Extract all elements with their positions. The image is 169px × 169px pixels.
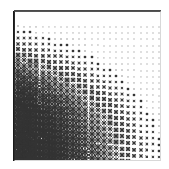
scatter-marker [41, 26, 44, 29]
scatter-marker [90, 33, 92, 35]
scatter-marker [81, 123, 89, 131]
scatter-marker [121, 58, 124, 61]
scatter-marker [56, 110, 66, 120]
scatter-marker [152, 45, 154, 47]
scatter-marker [72, 39, 75, 42]
scatter-marker [38, 91, 48, 101]
scatter-marker [97, 20, 99, 22]
scatter-marker [95, 81, 100, 86]
scatter-marker [22, 32, 26, 36]
scatter-marker [24, 127, 37, 140]
scatter-marker [139, 101, 142, 104]
scatter-marker [100, 130, 107, 137]
scatter-marker [157, 139, 160, 142]
scatter-marker [49, 147, 61, 159]
scatter-marker [102, 51, 105, 54]
scatter-marker [16, 38, 21, 43]
scatter-marker [139, 132, 143, 136]
scatter-marker [18, 109, 31, 122]
scatter-marker [101, 88, 106, 93]
scatter-marker [18, 115, 31, 128]
scatter-marker [70, 69, 75, 74]
scatter-marker [138, 157, 142, 161]
scatter-marker [78, 14, 80, 16]
scatter-marker [55, 147, 66, 158]
scatter-marker [33, 56, 39, 62]
scatter-marker [133, 14, 135, 16]
scatter-marker [15, 44, 21, 50]
scatter-marker [120, 100, 124, 104]
scatter-marker [23, 20, 26, 23]
scatter-marker [127, 76, 130, 79]
scatter-marker [36, 152, 49, 161]
scatter-marker [101, 112, 107, 118]
scatter-marker [152, 58, 154, 60]
scatter-marker [81, 136, 90, 145]
scatter-marker [109, 33, 111, 35]
scatter-marker [37, 97, 48, 108]
scatter-marker [133, 76, 136, 79]
scatter-marker [152, 14, 154, 16]
scatter-marker [115, 33, 117, 35]
scatter-marker [46, 56, 52, 62]
scatter-marker [121, 14, 123, 16]
scatter-marker [39, 68, 46, 75]
scatter-marker [77, 57, 81, 61]
scatter-marker [62, 117, 72, 127]
scatter-marker [94, 118, 101, 125]
scatter-marker [31, 97, 42, 108]
scatter-marker [25, 79, 35, 89]
scatter-marker [65, 39, 68, 42]
scatter-marker [96, 57, 99, 60]
scatter-marker [145, 138, 149, 142]
scatter-marker [37, 115, 49, 127]
scatter-marker [40, 44, 45, 49]
scatter-marker [109, 45, 111, 47]
scatter-marker [25, 91, 36, 102]
scatter-marker [103, 14, 105, 16]
scatter-marker [78, 45, 81, 48]
scatter-marker [121, 51, 123, 53]
scatter-marker [38, 74, 46, 82]
scatter-marker [145, 70, 147, 72]
scatter-marker [113, 156, 119, 161]
scatter-marker [35, 14, 38, 17]
scatter-marker [66, 20, 68, 22]
scatter-marker [127, 64, 130, 67]
scatter-marker [133, 64, 135, 66]
scatter-marker [107, 100, 112, 105]
scatter-marker [96, 39, 99, 42]
scatter-marker [158, 14, 160, 16]
scatter-marker [84, 33, 87, 36]
scatter-marker [107, 137, 114, 144]
scatter-marker [51, 74, 58, 81]
scatter-marker [37, 109, 48, 120]
scatter-marker [88, 99, 95, 106]
scatter-marker [158, 33, 160, 35]
scatter-marker [95, 100, 101, 106]
scatter-marker [139, 52, 141, 54]
scatter-plot-area[interactable] [14, 11, 161, 161]
scatter-marker [52, 56, 57, 61]
scatter-marker [108, 88, 113, 93]
scatter-marker [59, 44, 63, 48]
scatter-marker [151, 138, 154, 141]
scatter-marker [15, 49, 21, 55]
scatter-marker [127, 14, 129, 16]
scatter-marker [71, 51, 75, 55]
scatter-marker [115, 64, 118, 67]
scatter-marker [82, 87, 88, 93]
scatter-marker [158, 108, 161, 111]
scatter-marker [127, 52, 129, 54]
scatter-marker [97, 27, 99, 29]
scatter-marker [158, 77, 160, 79]
scatter-marker [145, 101, 148, 104]
scatter-marker [53, 50, 58, 55]
scatter-marker [43, 140, 55, 152]
scatter-marker [132, 156, 137, 161]
scatter-marker [59, 38, 62, 41]
scatter-marker [115, 39, 117, 41]
scatter-marker [103, 20, 105, 22]
scatter-marker [102, 76, 106, 80]
scatter-marker [25, 97, 37, 109]
